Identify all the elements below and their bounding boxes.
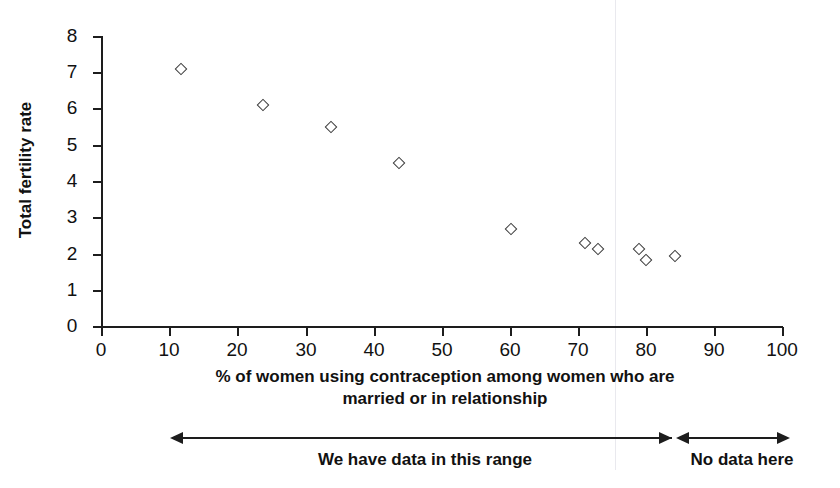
annotation-data-range-line [182, 437, 672, 439]
x-axis-label: % of women using contraception among wom… [100, 366, 790, 410]
y-axis-line [101, 36, 103, 328]
y-tick-6 [93, 108, 101, 110]
x-tick-40 [374, 327, 376, 336]
data-point [325, 121, 338, 134]
y-tick-label-5: 5 [58, 135, 86, 154]
x-tick-20 [237, 327, 239, 336]
annotation-no-data-line [688, 437, 778, 439]
y-axis-label-container: Total fertility rate [8, 0, 44, 340]
y-tick-5 [93, 145, 101, 147]
x-tick-label-0: 0 [81, 340, 121, 359]
x-tick-label-60: 60 [490, 340, 530, 359]
y-tick-label-4: 4 [58, 171, 86, 190]
y-tick-label-1: 1 [58, 280, 86, 299]
x-tick-0 [101, 327, 103, 336]
y-tick-4 [93, 181, 101, 183]
x-tick-10 [169, 327, 171, 336]
x-tick-100 [782, 327, 784, 336]
y-tick-label-3: 3 [58, 207, 86, 226]
y-tick-label-0: 0 [58, 316, 86, 335]
annotation-data-range-text: We have data in this range [290, 450, 560, 470]
x-tick-label-30: 30 [286, 340, 326, 359]
x-tick-label-80: 80 [626, 340, 666, 359]
x-tick-30 [306, 327, 308, 336]
annotation-no-data-arrow-right-icon [777, 432, 790, 444]
x-tick-label-10: 10 [149, 340, 189, 359]
y-tick-0 [93, 326, 101, 328]
x-tick-label-50: 50 [422, 340, 462, 359]
data-point [669, 250, 682, 263]
data-point [633, 242, 646, 255]
y-axis-label: Total fertility rate [16, 102, 36, 239]
data-point [505, 222, 518, 235]
x-tick-label-100: 100 [757, 340, 807, 359]
y-tick-1 [93, 290, 101, 292]
data-point [175, 62, 188, 75]
x-tick-label-40: 40 [354, 340, 394, 359]
y-tick-8 [93, 36, 101, 38]
annotation-no-data-text: No data here [672, 450, 812, 470]
x-tick-label-90: 90 [694, 340, 734, 359]
data-point [257, 99, 270, 112]
x-tick-90 [714, 327, 716, 336]
x-tick-50 [442, 327, 444, 336]
x-tick-80 [646, 327, 648, 336]
y-tick-3 [93, 217, 101, 219]
y-tick-label-6: 6 [58, 98, 86, 117]
data-point [640, 253, 653, 266]
annotation-data-range-arrow-right-icon [659, 432, 672, 444]
x-axis-label-line-2: married or in relationship [100, 388, 790, 410]
y-tick-label-2: 2 [58, 244, 86, 263]
x-tick-70 [578, 327, 580, 336]
x-axis-label-line-1: % of women using contraception among wom… [100, 366, 790, 388]
y-tick-7 [93, 72, 101, 74]
x-tick-60 [510, 327, 512, 336]
data-point [393, 157, 406, 170]
x-tick-label-20: 20 [217, 340, 257, 359]
y-tick-label-8: 8 [58, 26, 86, 45]
data-point [579, 237, 592, 250]
x-tick-label-70: 70 [558, 340, 598, 359]
scatter-chart-figure: Total fertility rate 8 7 6 5 4 3 2 1 0 0… [0, 0, 840, 488]
y-tick-label-7: 7 [58, 62, 86, 81]
y-tick-2 [93, 254, 101, 256]
data-point [592, 242, 605, 255]
